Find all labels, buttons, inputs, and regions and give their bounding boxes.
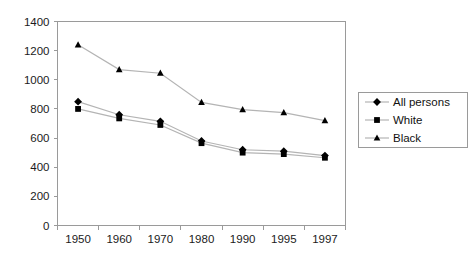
legend-item-label: Black [390, 131, 421, 145]
x-tick-label: 1970 [148, 233, 174, 245]
data-point [198, 99, 205, 105]
x-axis-ticks [58, 226, 346, 230]
y-tick-label: 400 [30, 161, 49, 173]
legend-item[interactable]: White [364, 112, 467, 128]
y-axis-tick-labels: 0200400600800100012001400 [24, 16, 50, 232]
series-all-persons [74, 98, 329, 160]
data-point [281, 151, 287, 157]
data-point [75, 41, 82, 47]
data-point [322, 155, 328, 161]
data-series-layer [74, 41, 329, 160]
legend-item-label: All persons [390, 95, 450, 109]
data-point [116, 66, 123, 72]
x-tick-label: 1960 [106, 233, 132, 245]
y-tick-label: 1200 [24, 45, 50, 57]
series-black [75, 41, 329, 123]
diamond-marker-icon [364, 95, 390, 109]
chart-legend: All personsWhiteBlack [358, 92, 468, 148]
y-tick-label: 800 [30, 103, 49, 115]
y-axis-ticks [54, 22, 58, 226]
x-tick-label: 1980 [189, 233, 215, 245]
y-tick-label: 200 [30, 190, 49, 202]
data-point [75, 106, 81, 112]
data-point [74, 98, 82, 106]
data-point [157, 122, 163, 128]
legend-item[interactable]: Black [364, 130, 467, 146]
x-axis-tick-labels: 1950196019701980199019951997 [65, 233, 337, 245]
y-tick-label: 0 [43, 220, 49, 232]
x-tick-label: 1995 [271, 233, 297, 245]
x-tick-label: 1990 [230, 233, 256, 245]
legend-item[interactable]: All persons [364, 94, 467, 110]
y-tick-label: 600 [30, 132, 49, 144]
data-point [240, 150, 246, 156]
line-chart: 0200400600800100012001400 19501960197019… [0, 0, 472, 269]
x-tick-label: 1997 [312, 233, 338, 245]
data-point [199, 140, 205, 146]
plot-frame [58, 22, 346, 226]
x-tick-label: 1950 [65, 233, 91, 245]
square-marker-icon [364, 113, 390, 127]
y-tick-label: 1000 [24, 74, 50, 86]
data-point [116, 116, 122, 122]
triangle-marker-icon [364, 131, 390, 145]
y-tick-label: 1400 [24, 16, 50, 28]
legend-item-label: White [390, 113, 422, 127]
